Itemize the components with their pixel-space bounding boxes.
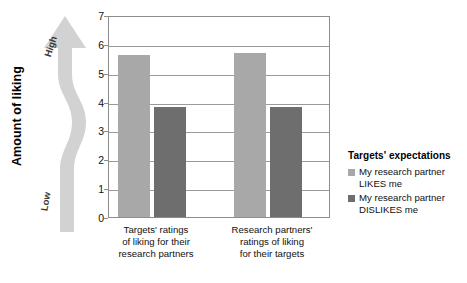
gridline	[109, 46, 329, 47]
bar	[154, 107, 186, 217]
bar	[118, 55, 150, 217]
legend-entries: My research partner LIKES meMy research …	[348, 166, 464, 215]
legend-item-label: My research partner LIKES me	[359, 166, 464, 189]
y-axis-tickmark	[104, 189, 108, 190]
plot-area	[108, 16, 330, 218]
y-axis-tick-label: 1	[88, 183, 104, 195]
x-axis-category-label-line: ratings of liking	[212, 236, 332, 248]
y-axis-tickmark	[104, 160, 108, 161]
x-axis-category-label-line: Research partners'	[212, 224, 332, 236]
y-axis-tick-label: 7	[88, 10, 104, 22]
legend-item: My research partner LIKES me	[348, 166, 464, 189]
y-axis-tick-label: 2	[88, 154, 104, 166]
legend-item-label: My research partner DISLIKES me	[359, 192, 464, 215]
x-axis-category-label-line: Targets' ratings	[96, 224, 216, 236]
y-axis-tick-label: 3	[88, 125, 104, 137]
bar	[234, 53, 266, 217]
liking-direction-arrow: High Low	[34, 10, 90, 232]
y-axis-tickmark	[104, 103, 108, 104]
y-axis-tickmark	[104, 45, 108, 46]
legend-title: Targets' expectations	[348, 150, 464, 161]
bar	[270, 107, 302, 217]
y-axis-tick-label: 5	[88, 68, 104, 80]
bar-fill	[154, 107, 186, 217]
x-axis-category-label: Research partners'ratings of likingfor t…	[212, 224, 332, 261]
legend: Targets' expectations My research partne…	[348, 150, 464, 218]
x-axis-category-label-line: research partners	[96, 248, 216, 260]
y-axis-title-container: Amount of liking	[0, 0, 34, 232]
x-axis-category-label-line: of liking for their	[96, 236, 216, 248]
y-axis-tick-label: 4	[88, 97, 104, 109]
bar-fill	[234, 53, 266, 217]
x-axis-category-label: Targets' ratingsof liking for theirresea…	[96, 224, 216, 261]
bar-fill	[270, 107, 302, 217]
legend-item: My research partner DISLIKES me	[348, 192, 464, 215]
y-axis-tick-label: 6	[88, 39, 104, 51]
x-axis-category-label-line: for their targets	[212, 248, 332, 260]
y-axis-tickmark	[104, 74, 108, 75]
legend-swatch-icon	[348, 169, 355, 176]
y-axis-ticks: 01234567	[86, 16, 104, 218]
y-axis-tick-label: 0	[88, 212, 104, 224]
y-axis-tickmark	[104, 218, 108, 219]
bar-fill	[118, 55, 150, 217]
legend-swatch-icon	[348, 195, 355, 202]
y-axis-title: Amount of liking	[10, 66, 24, 166]
y-axis-tickmark	[104, 16, 108, 17]
y-axis-tickmark	[104, 131, 108, 132]
